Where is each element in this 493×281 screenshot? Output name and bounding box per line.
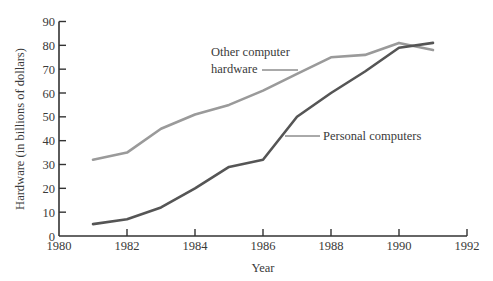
other-hardware-label-line1: Other computer (211, 45, 291, 59)
x-tick-label: 1982 (115, 239, 140, 253)
personal-computers-label: Personal computers (323, 129, 421, 143)
y-tick-label: 50 (43, 110, 56, 124)
other-hardware-label-line2: hardware (211, 62, 258, 76)
x-tick-label: 1988 (319, 239, 344, 253)
y-tick-label: 20 (43, 182, 56, 196)
x-axis-title: Year (251, 261, 275, 275)
y-tick-label: 60 (43, 87, 56, 101)
y-tick-label: 80 (43, 39, 56, 53)
y-tick-label: 70 (43, 63, 56, 77)
x-tick-label: 1986 (251, 239, 276, 253)
y-tick-label: 40 (43, 134, 56, 148)
y-tick-label: 10 (43, 206, 56, 220)
x-tick-label: 1990 (387, 239, 412, 253)
y-axis-title: Hardware (in billions of dollars) (13, 48, 27, 210)
x-tick-label: 1984 (183, 239, 209, 253)
y-tick-label: 90 (43, 15, 56, 29)
y-tick-label: 30 (43, 158, 56, 172)
x-axis: 1980198219841986198819901992 (47, 229, 480, 253)
x-tick-label: 1980 (47, 239, 72, 253)
line-chart: 0102030405060708090 19801982198419861988… (0, 0, 493, 281)
y-axis: 0102030405060708090 (43, 15, 67, 244)
x-tick-label: 1992 (455, 239, 480, 253)
